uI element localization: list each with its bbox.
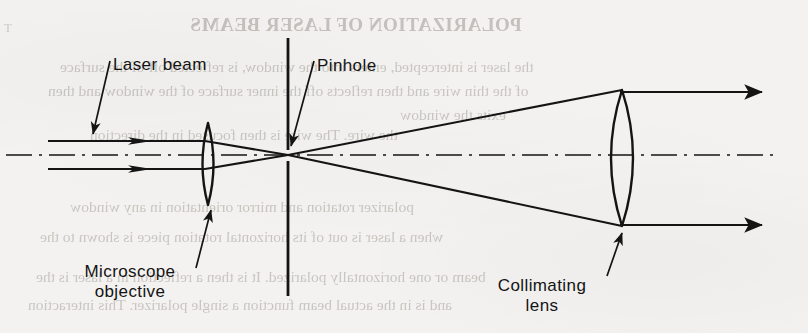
output-beam-rays [620,92,762,225]
scanned-page: POLARIZATION OF LASER BEAMS the laser is… [0,0,808,333]
microscope-objective-lens [203,123,214,205]
microscope-objective-leader [196,210,211,268]
diverging-cone [288,90,622,226]
collimating-lens-leader [607,233,622,276]
label-collimating-lens: Collimating lens [477,276,607,316]
label-microscope-objective-line1: Microscope [65,262,195,282]
label-laser-beam: Laser beam [113,55,207,75]
label-pinhole: Pinhole [317,56,377,76]
label-microscope-objective: Microscope objective [65,262,195,302]
label-collimating-lens-line1: Collimating [477,276,607,296]
pinhole-leader [291,61,314,146]
label-microscope-objective-line2: objective [65,282,195,302]
laser-beam-leader [93,61,110,134]
label-collimating-lens-line2: lens [477,296,607,316]
collimating-lens [611,90,633,226]
